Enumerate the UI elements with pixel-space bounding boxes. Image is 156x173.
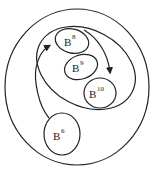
venn-diagram: B 8 B 9 B 10 B 6 [0, 0, 156, 173]
inner-set [22, 10, 150, 126]
svg-text:B: B [89, 88, 96, 100]
svg-text:B: B [72, 62, 79, 74]
svg-text:B: B [64, 36, 71, 48]
arrow-b6-to-b8 [36, 46, 49, 118]
svg-text:10: 10 [97, 85, 105, 93]
set-b6: B 6 [44, 113, 80, 155]
set-b10: B 10 [84, 78, 116, 108]
svg-text:8: 8 [72, 33, 76, 41]
svg-text:9: 9 [80, 59, 84, 67]
svg-text:B: B [53, 130, 60, 142]
set-b8: B 8 [52, 25, 91, 57]
svg-text:6: 6 [61, 127, 65, 135]
outer-set [5, 9, 149, 165]
